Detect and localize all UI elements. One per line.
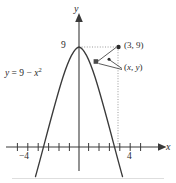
equation-exponent: 2: [38, 66, 41, 73]
x-tick-label-positive-4: 4: [127, 152, 132, 162]
x-tick-label-negative-4: −4: [19, 152, 29, 162]
point-3-9-marker: [116, 45, 120, 49]
y-intercept-label: 9: [61, 41, 66, 51]
point-3-9-label: (3, 9): [124, 41, 144, 50]
x-axis: [6, 143, 167, 151]
point-x-y-label-x: x: [127, 62, 131, 72]
y-axis-label: y: [74, 4, 78, 14]
point-x-y-label-y: y: [136, 62, 140, 72]
point-x-y-label: (x, y): [124, 63, 143, 72]
equation-equals: =: [12, 68, 17, 78]
equation-constant: 9: [19, 68, 24, 78]
equation-minus-sign: −: [26, 68, 31, 78]
parabola-figure: y x 9 −4 4 (3, 9) (x, y) y = 9 − x2: [0, 0, 176, 183]
x-axis-label: x: [166, 142, 170, 152]
equation-label: y = 9 − x2: [5, 69, 42, 79]
equation-lhs: y: [5, 68, 9, 78]
